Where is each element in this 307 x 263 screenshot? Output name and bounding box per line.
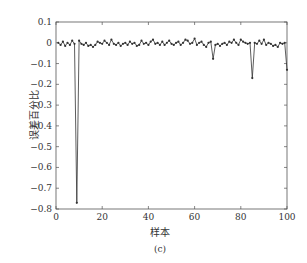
y-tick-label: −0.8 (30, 204, 52, 214)
data-point (184, 39, 186, 41)
data-point (270, 43, 272, 45)
plot-frame (56, 22, 287, 209)
data-point (173, 44, 175, 46)
data-point (143, 43, 145, 45)
data-point (219, 45, 221, 47)
data-point (71, 40, 73, 42)
x-axis: 020406080100 (53, 22, 296, 222)
y-tick-label: 0.1 (38, 17, 52, 27)
x-tick-label: 0 (53, 212, 59, 222)
y-tick-label: −0.6 (30, 162, 52, 172)
data-point (240, 39, 242, 41)
data-point (231, 42, 233, 44)
y-tick-label: −0.5 (30, 142, 52, 152)
data-point (136, 45, 138, 47)
data-point (110, 39, 112, 41)
data-point (170, 43, 172, 45)
data-point (147, 44, 149, 46)
y-axis-title: 误差百分比 (28, 90, 40, 140)
data-point (258, 40, 260, 42)
data-point (221, 43, 223, 45)
data-point (235, 42, 237, 44)
data-point (247, 43, 249, 45)
x-tick-label: 80 (235, 212, 247, 222)
data-point (99, 42, 101, 44)
data-point (189, 43, 191, 45)
data-point (237, 44, 239, 46)
data-point (261, 43, 263, 45)
data-point (210, 41, 212, 43)
x-tick-label: 100 (278, 212, 295, 222)
y-axis: 0.10−0.1−0.2−0.3−0.4−0.5−0.6−0.7−0.8 (30, 17, 287, 214)
data-point (203, 44, 205, 46)
data-point (83, 44, 85, 46)
data-point (90, 44, 92, 46)
data-point (152, 39, 154, 41)
data-point (122, 43, 124, 45)
chart-canvas: 0.10−0.1−0.2−0.3−0.4−0.5−0.6−0.7−0.8 020… (0, 0, 307, 263)
data-point (217, 43, 219, 45)
data-point (228, 41, 230, 43)
y-tick-label: −0.1 (30, 59, 52, 69)
data-point (73, 43, 75, 45)
data-point (101, 43, 103, 45)
data-point (94, 44, 96, 46)
data-point (251, 77, 253, 79)
data-point (150, 41, 152, 43)
data-point (62, 41, 64, 43)
data-point (198, 42, 200, 44)
x-axis-title: 样本 (150, 226, 170, 238)
data-point (97, 41, 99, 43)
data-point (60, 44, 62, 46)
data-point (108, 44, 110, 46)
data-point (85, 42, 87, 44)
data-point (284, 42, 286, 44)
data-point (180, 44, 182, 46)
data-point (168, 40, 170, 42)
data-point (256, 43, 258, 45)
data-point (154, 43, 156, 45)
data-point (57, 42, 59, 44)
data-point (194, 38, 196, 40)
data-point (66, 42, 68, 44)
data-point (200, 41, 202, 43)
data-point (279, 42, 281, 44)
data-point (115, 44, 117, 46)
data-point (127, 44, 129, 46)
data-point (267, 42, 269, 44)
data-point (187, 40, 189, 42)
data-point (117, 42, 119, 44)
y-tick-label: −0.7 (30, 183, 52, 193)
data-point (212, 58, 214, 60)
data-point (249, 42, 251, 44)
data-point (166, 42, 168, 44)
data-point (226, 44, 228, 46)
y-tick-label: −0.2 (30, 79, 52, 89)
data-point (277, 46, 279, 48)
data-point (207, 42, 209, 44)
data-point (254, 42, 256, 44)
error-series-line (58, 39, 287, 203)
x-tick-label: 20 (96, 212, 108, 222)
data-point (281, 43, 283, 45)
data-point (177, 41, 179, 43)
data-point (161, 41, 163, 43)
data-point (164, 44, 166, 46)
data-point (140, 40, 142, 42)
data-point (138, 44, 140, 46)
data-point (214, 44, 216, 46)
data-point (272, 45, 274, 47)
figure-caption: (c) (154, 244, 166, 254)
data-point (129, 41, 131, 43)
data-point (76, 202, 78, 204)
data-point (205, 46, 207, 48)
data-point (124, 42, 126, 44)
data-point (242, 41, 244, 43)
x-tick-label: 40 (143, 212, 155, 222)
data-point (196, 44, 198, 46)
data-point (182, 42, 184, 44)
data-point (159, 44, 161, 46)
data-point (233, 39, 235, 41)
data-point (103, 40, 105, 42)
data-point (131, 43, 133, 45)
